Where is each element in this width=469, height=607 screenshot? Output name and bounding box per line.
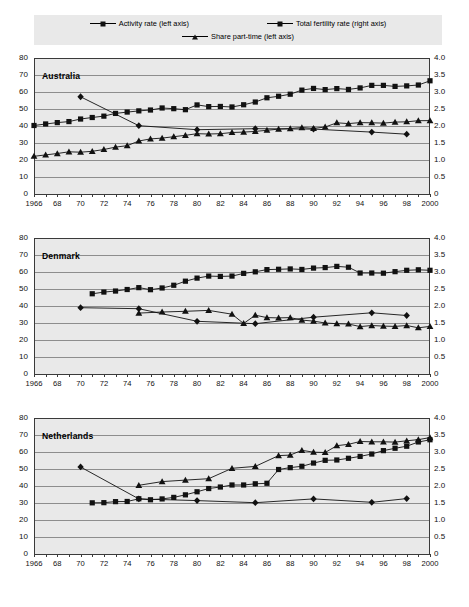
y-axis-right-tick-label: 2.0 <box>434 302 460 310</box>
x-axis-tick <box>360 194 361 197</box>
x-axis-tick <box>372 194 373 197</box>
x-axis-tick <box>174 374 175 377</box>
x-axis-tick <box>81 374 82 377</box>
y-axis-right-tick-label: 1.0 <box>434 156 460 164</box>
x-axis-tick-label: 68 <box>53 379 61 388</box>
y-axis-right-tick-label: 1.0 <box>434 336 460 344</box>
legend-label-total-fertility-rate: Total fertility rate (right axis) <box>296 19 386 28</box>
x-axis-tick <box>34 374 35 377</box>
x-axis-tick <box>372 374 373 377</box>
x-axis-tick <box>267 554 268 557</box>
x-axis-tick <box>197 374 198 377</box>
x-axis-tick <box>197 554 198 557</box>
x-axis-tick-label: 68 <box>53 199 61 208</box>
y-axis-left-tick-label: 50 <box>6 285 28 293</box>
x-axis-tick <box>151 194 152 197</box>
x-axis-tick <box>418 374 419 377</box>
x-axis-tick-label: 76 <box>146 379 154 388</box>
x-axis-tick <box>174 194 175 197</box>
x-axis-tick <box>197 194 198 197</box>
x-axis-tick-label: 98 <box>402 199 410 208</box>
square-marker-icon <box>90 19 116 28</box>
x-axis-tick <box>139 194 140 197</box>
y-axis-right-tick-label: 0.5 <box>434 533 460 541</box>
x-axis-tick <box>209 194 210 197</box>
x-axis-tick <box>185 374 186 377</box>
y-axis-left-tick-label: 20 <box>6 516 28 524</box>
y-axis-right-tick-label: 3.0 <box>434 448 460 456</box>
x-axis-tick <box>209 374 210 377</box>
x-axis-tick <box>337 554 338 557</box>
diamond-marker-icon <box>267 19 293 28</box>
x-axis-tick <box>46 554 47 557</box>
panel-title: Netherlands <box>42 431 93 441</box>
x-axis-tick <box>104 554 105 557</box>
x-axis-tick <box>162 554 163 557</box>
x-axis-tick <box>267 194 268 197</box>
x-axis-tick-label: 90 <box>309 379 317 388</box>
x-axis-tick <box>360 554 361 557</box>
x-axis-tick <box>290 194 291 197</box>
x-axis-tick <box>349 554 350 557</box>
y-axis-right-tick-label: 2.0 <box>434 482 460 490</box>
y-axis-left-tick-label: 40 <box>6 122 28 130</box>
y-axis-left-tick-label: 10 <box>6 533 28 541</box>
x-axis-tick <box>360 374 361 377</box>
x-axis-tick-label: 90 <box>309 199 317 208</box>
x-axis-tick <box>395 374 396 377</box>
x-axis-tick-label: 84 <box>239 379 247 388</box>
x-axis-tick <box>255 194 256 197</box>
x-axis-tick <box>34 194 35 197</box>
legend-item-total-fertility-rate: Total fertility rate (right axis) <box>267 19 386 28</box>
x-axis-tick <box>244 194 245 197</box>
x-axis-tick-label: 94 <box>356 199 364 208</box>
x-axis-tick <box>383 194 384 197</box>
y-axis-left-tick-label: 0 <box>6 190 28 198</box>
legend-row-bottom: Share part-time (left axis) <box>34 30 442 43</box>
x-axis-tick <box>407 194 408 197</box>
x-axis-tick <box>116 554 117 557</box>
x-axis-tick-label: 80 <box>193 379 201 388</box>
x-axis-tick <box>69 194 70 197</box>
x-axis-tick-label: 82 <box>216 199 224 208</box>
y-axis-left-tick-label: 80 <box>6 234 28 242</box>
x-axis-tick <box>232 194 233 197</box>
x-axis-tick-label: 86 <box>263 379 271 388</box>
triangle-marker-icon <box>182 32 208 41</box>
x-axis-tick-label: 2000 <box>422 379 439 388</box>
y-axis-left-tick-label: 50 <box>6 105 28 113</box>
y-axis-left-tick-label: 60 <box>6 448 28 456</box>
x-axis-tick-label: 86 <box>263 559 271 568</box>
x-axis-tick <box>139 554 140 557</box>
x-axis-tick <box>104 374 105 377</box>
x-axis-tick <box>46 194 47 197</box>
chart-panel-australia: 807060504030201004.03.53.02.52.01.51.00.… <box>0 52 469 224</box>
x-axis-tick-label: 1966 <box>26 199 43 208</box>
plot-area <box>34 418 430 554</box>
y-axis-right-tick-label: 0 <box>434 190 460 198</box>
series-layer <box>34 418 430 554</box>
x-axis-tick <box>314 194 315 197</box>
x-axis-tick <box>337 194 338 197</box>
y-axis-left-tick-label: 20 <box>6 156 28 164</box>
x-axis-tick-label: 70 <box>76 379 84 388</box>
y-axis-right-tick-label: 0.5 <box>434 173 460 181</box>
x-axis-tick-label: 78 <box>170 559 178 568</box>
x-axis-tick-label: 74 <box>123 199 131 208</box>
x-axis-tick-label: 2000 <box>422 559 439 568</box>
panel-title: Denmark <box>42 251 80 261</box>
x-axis-tick <box>220 554 221 557</box>
x-axis-tick-label: 88 <box>286 559 294 568</box>
x-axis-tick <box>220 374 221 377</box>
x-axis-tick-label: 84 <box>239 559 247 568</box>
x-axis-tick-label: 74 <box>123 379 131 388</box>
y-axis-left-tick-label: 40 <box>6 482 28 490</box>
x-axis-tick <box>92 374 93 377</box>
x-axis-tick <box>279 554 280 557</box>
x-axis-tick <box>255 554 256 557</box>
x-axis-tick <box>139 374 140 377</box>
x-axis-tick <box>220 194 221 197</box>
legend-label-activity-rate: Activity rate (left axis) <box>119 19 189 28</box>
x-axis-tick-label: 1966 <box>26 559 43 568</box>
x-axis-tick <box>209 554 210 557</box>
